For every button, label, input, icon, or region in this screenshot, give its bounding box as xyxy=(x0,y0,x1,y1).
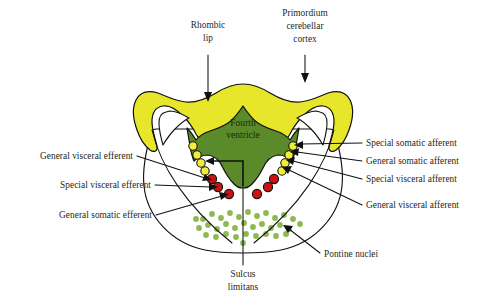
label-general-somatic-afferent: General somatic afferent xyxy=(366,156,459,166)
dot-yellow-right-1 xyxy=(289,142,297,150)
label-rhombic-lip-line2: lip xyxy=(203,33,213,43)
dot-yellow-left-2 xyxy=(193,151,201,159)
figure-root: Fourth ventricle Rhombic lip Primordium … xyxy=(0,0,487,301)
dot-red-right-2 xyxy=(263,182,272,191)
label-primordium-line3: cortex xyxy=(293,34,317,44)
label-special-visceral-afferent: Special visceral afferent xyxy=(366,174,457,184)
label-sulcus-limitans-line1: Sulcus xyxy=(230,269,255,279)
label-general-visceral-efferent: General visceral efferent xyxy=(40,151,133,161)
label-general-somatic-efferent: General somatic efferent xyxy=(59,210,152,220)
label-general-visceral-afferent: General visceral afferent xyxy=(366,200,459,210)
fourth-ventricle-label-line2: ventricle xyxy=(226,129,260,140)
anatomical-diagram: Fourth ventricle Rhombic lip Primordium … xyxy=(0,0,487,301)
label-pontine-nuclei: Pontine nuclei xyxy=(324,249,379,259)
dot-yellow-left-1 xyxy=(189,142,197,150)
label-special-somatic-afferent: Special somatic afferent xyxy=(366,138,457,148)
label-primordium-line2: cerebellar xyxy=(286,21,324,31)
dot-red-right-3 xyxy=(252,189,261,198)
dot-yellow-left-3 xyxy=(197,159,205,167)
dot-yellow-left-4 xyxy=(201,167,209,175)
label-primordium-line1: Primordium xyxy=(282,8,328,18)
dot-red-right-1 xyxy=(269,174,278,183)
primordium-cerebellar-cortex-arrowhead xyxy=(301,73,309,83)
fourth-ventricle-label-line1: Fourth xyxy=(230,117,256,128)
label-special-visceral-efferent: Special visceral efferent xyxy=(60,180,151,190)
label-sulcus-limitans-line2: limitans xyxy=(228,282,259,292)
label-rhombic-lip-line1: Rhombic xyxy=(191,20,225,30)
